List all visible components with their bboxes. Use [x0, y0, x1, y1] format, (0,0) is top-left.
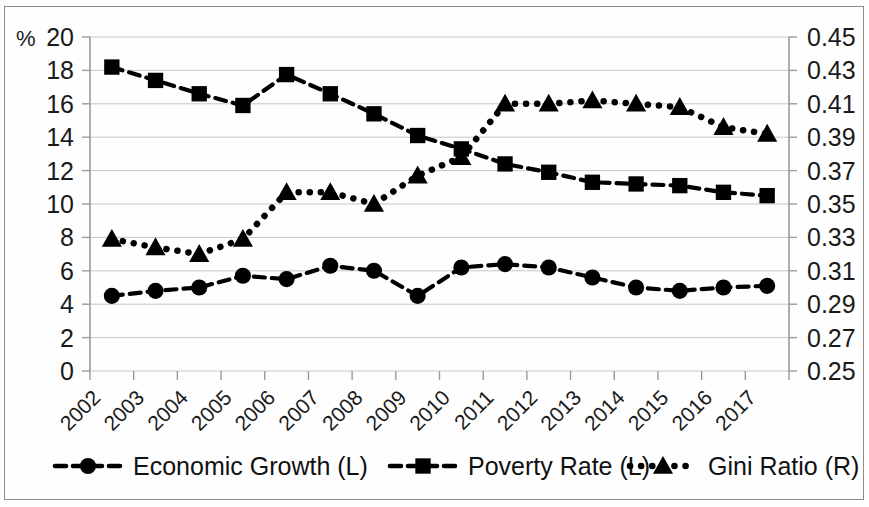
series-2 — [104, 59, 775, 203]
data-point — [759, 278, 775, 294]
data-point — [235, 98, 250, 113]
data-point — [145, 237, 165, 255]
x-axis-tick-label: 2008 — [317, 386, 366, 435]
x-axis-tick-label: 2005 — [186, 386, 235, 435]
axes — [82, 37, 797, 380]
data-point — [582, 90, 602, 108]
data-point — [323, 86, 338, 101]
chart-legend: Economic Growth (L)Poverty Rate (L)Gini … — [55, 452, 859, 480]
chart-canvas: 02468101214161820 0.250.270.290.310.330.… — [0, 0, 869, 507]
data-point — [672, 283, 688, 299]
data-point — [715, 279, 731, 295]
left-axis-tick-label: 16 — [46, 90, 74, 118]
legend-item: Poverty Rate (L) — [390, 452, 650, 480]
left-axis-tick-label: 18 — [46, 56, 74, 84]
right-axis-tick-label: 0.35 — [807, 190, 856, 218]
chart-figure: 02468101214161820 0.250.270.290.310.330.… — [0, 0, 869, 507]
data-point — [366, 263, 382, 279]
right-axis-tick-label: 0.43 — [807, 56, 856, 84]
data-point — [541, 165, 556, 180]
data-point — [104, 288, 120, 304]
data-point — [366, 106, 381, 121]
left-axis-unit-label-text: % — [16, 26, 36, 51]
x-axis-tick-label: 2007 — [274, 386, 323, 435]
left-axis-tick-label: 2 — [60, 324, 74, 352]
data-point — [410, 288, 426, 304]
data-point — [235, 268, 251, 284]
legend-label: Poverty Rate (L) — [468, 452, 650, 480]
left-axis-tick-label: 10 — [46, 190, 74, 218]
right-axis-tick-label: 0.33 — [807, 223, 856, 251]
data-point — [192, 86, 207, 101]
right-axis-tick-label: 0.37 — [807, 157, 856, 185]
data-point — [279, 271, 295, 287]
data-point — [277, 182, 297, 200]
right-axis-tick-label: 0.39 — [807, 123, 856, 151]
data-point — [584, 269, 600, 285]
x-axis-tick-label: 2017 — [711, 386, 760, 435]
data-point — [189, 244, 209, 262]
legend-marker-square-icon — [415, 458, 430, 473]
data-point — [147, 283, 163, 299]
x-axis-tick-label: 2002 — [55, 386, 104, 435]
data-point — [628, 176, 643, 191]
right-axis-tick-label: 0.41 — [807, 90, 856, 118]
data-point — [104, 59, 119, 74]
series-line — [112, 100, 767, 254]
left-axis-tick-label: 12 — [46, 157, 74, 185]
x-axis-tick-label: 2003 — [99, 386, 148, 435]
data-point — [497, 156, 512, 171]
data-point — [279, 67, 294, 82]
series-line — [112, 67, 767, 196]
right-axis-tick-labels: 0.250.270.290.310.330.350.370.390.410.43… — [807, 23, 856, 385]
x-axis-tick-labels: 2002200320042005200620072008200920102011… — [55, 385, 760, 435]
data-point — [191, 279, 207, 295]
x-axis-tick-label: 2015 — [623, 386, 672, 435]
legend-marker-triangle-icon — [653, 456, 673, 474]
left-axis-tick-label: 8 — [60, 223, 74, 251]
left-axis-tick-label: 14 — [46, 123, 74, 151]
right-axis-tick-label: 0.31 — [807, 257, 856, 285]
data-point — [322, 258, 338, 274]
data-point — [539, 94, 559, 112]
x-axis-tick-label: 2009 — [361, 386, 410, 435]
legend-marker-circle-icon — [80, 458, 96, 474]
series-1 — [104, 256, 775, 304]
data-point — [672, 178, 687, 193]
data-point — [759, 188, 774, 203]
data-point — [585, 175, 600, 190]
x-axis-tick-label: 2004 — [143, 385, 193, 435]
data-point — [626, 94, 646, 112]
legend-item: Gini Ratio (R) — [630, 452, 859, 480]
right-axis-tick-label: 0.25 — [807, 357, 856, 385]
x-axis-tick-label: 2014 — [580, 385, 630, 435]
right-axis-tick-label: 0.29 — [807, 290, 856, 318]
x-axis-tick-label: 2016 — [667, 386, 716, 435]
data-point — [410, 128, 425, 143]
left-axis-tick-labels: 02468101214161820 — [46, 23, 74, 385]
left-axis-tick-label: 6 — [60, 257, 74, 285]
legend-label: Gini Ratio (R) — [708, 452, 859, 480]
data-point — [757, 124, 777, 142]
left-axis-tick-label: 4 — [60, 290, 74, 318]
right-axis-tick-label: 0.45 — [807, 23, 856, 51]
legend-label: Economic Growth (L) — [133, 452, 368, 480]
left-axis-unit-label: % — [16, 26, 36, 51]
data-point — [628, 279, 644, 295]
x-axis-tick-label: 2012 — [492, 386, 541, 435]
series-line — [112, 264, 767, 296]
legend-item: Economic Growth (L) — [55, 452, 368, 480]
left-axis-tick-label: 20 — [46, 23, 74, 51]
right-axis-tick-label: 0.27 — [807, 324, 856, 352]
data-point — [541, 259, 557, 275]
x-axis-tick-label: 2006 — [230, 386, 279, 435]
x-axis-tick-label: 2010 — [405, 386, 454, 435]
x-axis-tick-label: 2013 — [536, 386, 585, 435]
left-axis-tick-label: 0 — [60, 357, 74, 385]
data-point — [716, 185, 731, 200]
data-point — [148, 73, 163, 88]
data-series — [102, 59, 777, 304]
data-point — [453, 259, 469, 275]
series-3 — [102, 90, 777, 262]
data-point — [102, 229, 122, 247]
